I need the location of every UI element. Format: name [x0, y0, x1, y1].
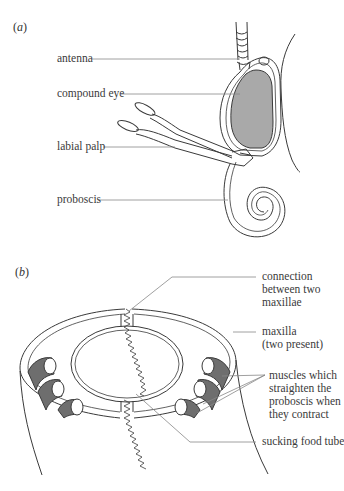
label-connection-line1: connection — [262, 270, 320, 283]
label-antenna: antenna — [57, 52, 93, 65]
label-sucking-food-tube: sucking food tube — [262, 435, 344, 448]
label-muscles-line2: straighten the — [269, 382, 341, 395]
label-connection: connection between two maxillae — [262, 270, 320, 309]
leader-lines-b — [129, 277, 265, 442]
antenna-drawing — [236, 22, 250, 70]
ocellus — [259, 57, 269, 65]
label-proboscis: proboscis — [57, 193, 101, 206]
panel-a-label: (a) — [13, 20, 27, 35]
label-muscles: muscles which straighten the proboscis w… — [269, 369, 341, 421]
label-muscles-line1: muscles which — [269, 369, 341, 382]
label-maxilla-line2: (two present) — [262, 338, 323, 351]
zigzag-connection — [124, 309, 146, 396]
proboscis-cross-section — [20, 309, 268, 475]
insect-head-drawing — [116, 22, 300, 237]
label-maxilla: maxilla (two present) — [262, 325, 323, 351]
leader-lines-a — [92, 59, 240, 200]
label-muscles-line4: they contract — [269, 408, 341, 421]
food-tube-shape — [71, 326, 183, 402]
panel-b-label: (b) — [15, 265, 29, 280]
label-maxilla-line1: maxilla — [262, 325, 323, 338]
label-muscles-line3: proboscis when — [269, 395, 341, 408]
label-compound-eye: compound eye — [57, 87, 124, 100]
label-connection-line2: between two — [262, 283, 320, 296]
proboscis-drawing — [224, 162, 285, 237]
label-labial-palp: labial palp — [57, 140, 105, 153]
label-connection-line3: maxillae — [262, 296, 320, 309]
